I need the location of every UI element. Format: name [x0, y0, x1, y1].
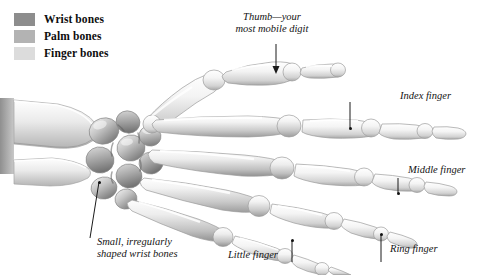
annotation-thumb: Thumb—your most mobile digit [236, 11, 309, 34]
color-swatch-finger-bones [14, 47, 35, 60]
leader-dot-little [291, 239, 294, 242]
illustration-canvas: Wrist bones Palm bones Finger bones Thum… [0, 0, 484, 275]
annotation-carpal: Small, irregularly shaped wrist bones [97, 236, 178, 259]
color-swatch-palm-bones [14, 30, 35, 43]
annotation-thumb-line1: Thumb—your [236, 11, 309, 23]
legend-label-finger-bones: Finger bones [44, 47, 109, 60]
arrowhead-thumb [273, 66, 280, 74]
legend-item-wrist-bones: Wrist bones [14, 11, 109, 27]
leader-dot-index [349, 127, 352, 130]
annotation-index-line1: Index finger [400, 90, 451, 102]
leader-dot-ring [380, 233, 383, 236]
leader-dot-carpal [98, 181, 101, 184]
annotation-carpal-line2: shaped wrist bones [97, 248, 178, 260]
annotation-ring-line1: Ring finger [390, 243, 438, 255]
legend-item-palm-bones: Palm bones [14, 28, 109, 44]
legend-label-wrist-bones: Wrist bones [44, 13, 104, 26]
annotation-ring: Ring finger [390, 243, 438, 255]
annotation-middle-line1: Middle finger [408, 164, 465, 176]
leader-line-carpal [90, 182, 99, 238]
annotation-thumb-line2: most mobile digit [236, 23, 309, 35]
legend: Wrist bones Palm bones Finger bones [14, 11, 109, 62]
leader-dot-middle [397, 192, 400, 195]
legend-item-finger-bones: Finger bones [14, 45, 109, 61]
annotation-little-line1: Little finger [228, 249, 278, 261]
legend-label-palm-bones: Palm bones [44, 30, 102, 43]
annotation-index: Index finger [400, 90, 451, 102]
annotation-middle: Middle finger [408, 164, 465, 176]
annotation-little: Little finger [228, 249, 278, 261]
color-swatch-wrist-bones [14, 13, 35, 26]
annotation-carpal-line1: Small, irregularly [97, 236, 178, 248]
